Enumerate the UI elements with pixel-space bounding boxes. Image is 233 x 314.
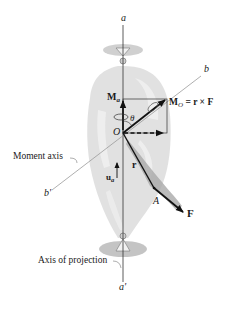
force-label: F [187,207,194,219]
moment-about-axis-diagram: a a' b b' Ma MO = r × F θ O r ua A F Mom… [0,0,233,314]
moment-axis-top-label: b [204,63,209,74]
moment-axis-caption: Moment axis [13,151,63,161]
axis-bottom-label: a' [119,281,127,292]
origin-label: O [113,126,120,137]
angle-label: θ [130,113,135,123]
moment-point-equation: MO = r × F [169,97,213,109]
position-vector-label: r [132,159,137,170]
axis-top-label: a [121,12,126,23]
moment-axis-leader [70,158,77,163]
point-a-label: A [152,195,160,206]
moment-axis-bottom-label: b' [44,187,52,198]
projection-axis-caption: Axis of projection [38,255,107,265]
projection-axis-leader [113,261,121,268]
